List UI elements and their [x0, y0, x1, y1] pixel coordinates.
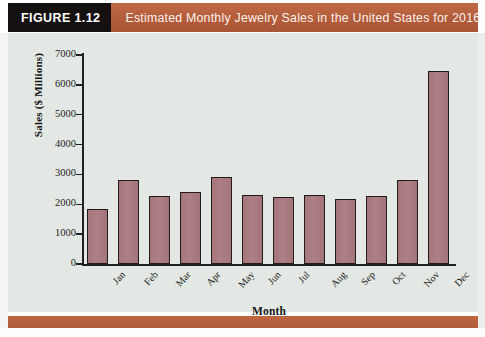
x-tick-apr: Apr — [204, 269, 223, 288]
x-tick-feb: Feb — [142, 269, 160, 287]
x-tick-oct: Oct — [390, 269, 408, 287]
page-edge-left — [0, 33, 8, 337]
x-tick-aug: Aug — [328, 269, 348, 289]
figure-screenshot: FIGURE 1.12 Estimated Monthly Jewelry Sa… — [0, 0, 485, 337]
bar-jul — [273, 197, 293, 264]
x-tick-jun: Jun — [265, 269, 283, 287]
figure-title: Estimated Monthly Jewelry Sales in the U… — [111, 11, 480, 25]
bar-jun — [242, 195, 262, 264]
y-axis-tick-label: 4000 — [32, 138, 76, 149]
y-axis-tick-label: 6000 — [32, 78, 76, 89]
page-edge-right — [478, 33, 485, 337]
bar-sep — [335, 199, 355, 264]
y-axis-tick-label: 7000 — [32, 48, 76, 59]
bar-jan — [87, 209, 107, 264]
bar-feb — [118, 180, 138, 264]
figure-bottom-rule — [8, 316, 478, 328]
plot-area — [82, 55, 454, 264]
bar-aug — [304, 195, 324, 264]
y-axis-tick-label: 3000 — [32, 167, 76, 178]
figure-number-tag: FIGURE 1.12 — [8, 3, 111, 32]
y-axis-tick-label: 0 — [32, 257, 76, 268]
bar-chart: Sales ($ Millions) 010002000300040005000… — [8, 33, 478, 312]
x-tick-jul: Jul — [296, 269, 312, 285]
bar-oct — [366, 196, 386, 264]
x-tick-mar: Mar — [173, 269, 192, 289]
bar-dec — [428, 71, 448, 264]
x-axis-line — [82, 264, 456, 266]
y-axis-tick-label: 1000 — [32, 227, 76, 238]
x-tick-nov: Nov — [421, 269, 441, 289]
bar-apr — [180, 192, 200, 264]
x-tick-jan: Jan — [110, 269, 127, 286]
y-axis-tick-label: 2000 — [32, 197, 76, 208]
x-tick-may: May — [236, 269, 257, 290]
x-tick-dec: Dec — [452, 269, 471, 288]
bar-mar — [149, 196, 169, 264]
y-axis-tick-label: 5000 — [32, 108, 76, 119]
bar-nov — [397, 180, 417, 264]
figure-banner: FIGURE 1.12 Estimated Monthly Jewelry Sa… — [8, 3, 478, 32]
bar-may — [211, 177, 231, 264]
page-bottom-edge — [0, 328, 485, 337]
x-tick-sep: Sep — [359, 269, 377, 287]
